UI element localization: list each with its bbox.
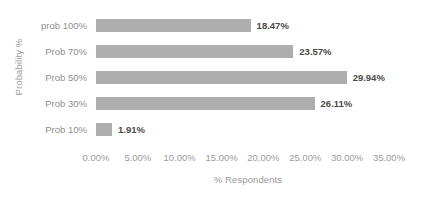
x-axis-tick: 20.00% [247, 150, 279, 166]
category-label: Prob 30% [45, 91, 87, 117]
category-label: Prob 50% [45, 65, 87, 91]
bar [96, 45, 293, 58]
bar-value-label: 23.57% [299, 39, 331, 65]
y-axis-title: Probability % [12, 15, 26, 119]
x-axis-tick: 35.00% [373, 150, 405, 166]
bar-row: Prob 10%1.91% [96, 117, 389, 143]
bar [96, 97, 315, 110]
bar-row: Prob 70%23.57% [96, 39, 389, 65]
category-label: Prob 10% [45, 117, 87, 143]
x-axis-tick: 30.00% [331, 150, 363, 166]
bar-row: Prob 30%26.11% [96, 91, 389, 117]
bar-value-label: 29.94% [353, 65, 385, 91]
x-axis-tick: 0.00% [83, 150, 110, 166]
bar [96, 123, 112, 136]
x-axis-tick: 10.00% [164, 150, 196, 166]
bar-value-label: 18.47% [257, 13, 289, 39]
category-label: Prob 70% [45, 39, 87, 65]
bar-value-label: 1.91% [118, 117, 145, 143]
bar-row: prob 100%18.47% [96, 13, 389, 39]
category-label: prob 100% [41, 13, 87, 39]
x-axis-tick: 15.00% [205, 150, 237, 166]
bar-row: Prob 50%29.94% [96, 65, 389, 91]
x-axis-tick-labels: 0.00%5.00%10.00%15.00%20.00%25.00%30.00%… [0, 150, 426, 166]
x-axis-tick: 25.00% [289, 150, 321, 166]
x-axis-tick: 5.00% [124, 150, 151, 166]
x-axis-title: % Respondents [0, 172, 426, 188]
plot-area: prob 100%18.47%Prob 70%23.57%Prob 50%29.… [96, 8, 389, 150]
bar-chart: Probability % prob 100%18.47%Prob 70%23.… [0, 0, 426, 208]
x-axis-title-text: % Respondents [214, 172, 282, 188]
bar [96, 19, 251, 32]
bar-value-label: 26.11% [321, 91, 353, 117]
bar [96, 71, 347, 84]
